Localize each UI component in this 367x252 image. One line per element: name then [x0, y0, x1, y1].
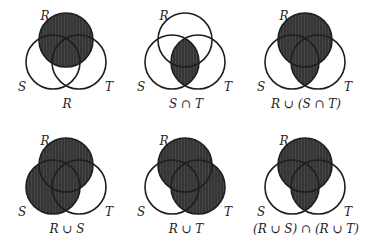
panel-caption: R ∪ (S ∩ T) [270, 97, 341, 111]
venn-panel-r-cup-s-cap-r-cup-t: RST(R ∪ S) ∩ (R ∪ T) [253, 134, 359, 236]
panel-caption: R [61, 97, 71, 111]
venn-diagram-figure: RSTRRSTS ∩ TRSTR ∪ (S ∩ T)RSTR ∪ SRSTR ∪… [0, 0, 367, 252]
set-label-s: S [137, 205, 145, 219]
set-label-r: R [39, 134, 49, 148]
set-label-t: T [105, 205, 114, 219]
panel-caption: S ∩ T [169, 97, 204, 111]
set-label-t: T [105, 80, 114, 94]
venn-panel-r-cup-t: RSTR ∪ T [137, 134, 233, 236]
set-label-s: S [18, 205, 26, 219]
panel-caption: R ∪ T [168, 222, 205, 236]
set-label-r: R [278, 134, 288, 148]
venn-panel-s-cap-t: RSTS ∩ T [137, 9, 233, 111]
set-label-t: T [224, 80, 233, 94]
set-label-t: T [224, 205, 233, 219]
venn-panel-r-cup-s-cap-t: RSTR ∪ (S ∩ T) [257, 9, 353, 111]
set-label-t: T [344, 205, 353, 219]
panel-caption: (R ∪ S) ∩ (R ∪ T) [253, 222, 359, 236]
set-label-r: R [158, 9, 168, 23]
set-label-r: R [39, 9, 49, 23]
panel-caption: R ∪ S [49, 222, 85, 236]
set-label-s: S [257, 80, 265, 94]
set-label-s: S [257, 205, 265, 219]
venn-panel-r: RSTR [18, 9, 114, 111]
set-label-r: R [158, 134, 168, 148]
set-label-s: S [18, 80, 26, 94]
venn-panel-r-cup-s: RSTR ∪ S [18, 134, 114, 236]
set-label-r: R [278, 9, 288, 23]
set-label-s: S [137, 80, 145, 94]
set-label-t: T [344, 80, 353, 94]
